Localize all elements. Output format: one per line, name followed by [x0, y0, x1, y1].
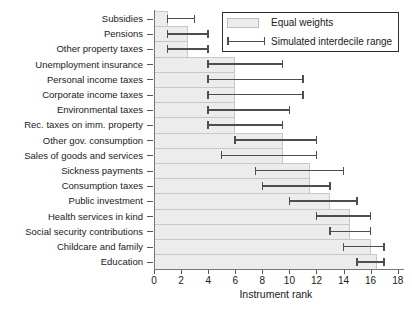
y-label-rec-taxes-on-imm-property: Rec. taxes on imm. property	[0, 117, 143, 132]
whisker-cap-lo-childcare-and-family	[343, 243, 345, 251]
x-tick-label-8: 8	[250, 275, 274, 286]
bar-social-security-contributions	[154, 224, 350, 240]
y-tick-corporate-income-taxes	[147, 95, 153, 96]
y-label-pensions: Pensions	[0, 26, 143, 41]
whisker-cap-lo-other-property-taxes	[167, 45, 169, 53]
whisker-cap-hi-sales-of-goods-and-services	[316, 151, 318, 159]
y-label-sickness-payments: Sickness payments	[0, 163, 143, 178]
legend-label-equal-weights: Equal weights	[271, 17, 333, 28]
legend-label-interdecile-range: Simulated interdecile range	[271, 36, 392, 47]
whisker-cap-hi-education	[383, 258, 385, 266]
whisker-cap-hi-social-security-contributions	[370, 227, 372, 235]
y-tick-personal-income-taxes	[147, 79, 153, 80]
bar-subsidies	[154, 11, 168, 27]
whisker-sickness-payments	[256, 170, 344, 172]
x-tick-10	[289, 270, 290, 274]
y-tick-education	[147, 262, 153, 263]
y-label-social-security-contributions: Social security contributions	[0, 224, 143, 239]
y-label-subsidies: Subsidies	[0, 11, 143, 26]
whisker-cap-hi-other-gov-consumption	[316, 136, 318, 144]
x-tick-0	[154, 270, 155, 274]
whisker-environmental-taxes	[208, 109, 289, 111]
whisker-cap-lo-personal-income-taxes	[207, 75, 209, 83]
y-label-health-services-in-kind: Health services in kind	[0, 209, 143, 224]
whisker-cap-lo-environmental-taxes	[207, 106, 209, 114]
x-tick-14	[344, 270, 345, 274]
x-tick-label-16: 16	[359, 275, 383, 286]
x-tick-12	[316, 270, 317, 274]
x-tick-4	[208, 270, 209, 274]
whisker-cap-hi-rec-taxes-on-imm-property	[282, 121, 284, 129]
y-tick-public-investment	[147, 201, 153, 202]
whisker-sales-of-goods-and-services	[222, 155, 317, 157]
whisker-cap-lo-social-security-contributions	[329, 227, 331, 235]
x-tick-2	[181, 270, 182, 274]
whisker-cap-lo-rec-taxes-on-imm-property	[207, 121, 209, 129]
bar-education	[154, 254, 377, 270]
y-label-unemployment-insurance: Unemployment insurance	[0, 57, 143, 72]
x-tick-18	[398, 270, 399, 274]
y-label-corporate-income-taxes: Corporate income taxes	[0, 87, 143, 102]
legend-item-equal-weights: Equal weights	[223, 14, 398, 32]
whisker-childcare-and-family	[344, 246, 385, 248]
whisker-cap-hi-childcare-and-family	[383, 243, 385, 251]
x-tick-16	[371, 270, 372, 274]
y-label-public-investment: Public investment	[0, 193, 143, 208]
whisker-cap-hi-health-services-in-kind	[370, 212, 372, 220]
y-tick-pensions	[147, 34, 153, 35]
y-tick-subsidies	[147, 19, 153, 20]
whisker-corporate-income-taxes	[208, 94, 303, 96]
whisker-consumption-taxes	[262, 185, 330, 187]
whisker-cap-lo-health-services-in-kind	[316, 212, 318, 220]
y-label-childcare-and-family: Childcare and family	[0, 239, 143, 254]
whisker-cap-hi-corporate-income-taxes	[302, 91, 304, 99]
bar-childcare-and-family	[154, 239, 371, 255]
y-label-other-gov-consumption: Other gov. consumption	[0, 133, 143, 148]
whisker-personal-income-taxes	[208, 79, 303, 81]
x-tick-label-12: 12	[304, 275, 328, 286]
x-tick-label-10: 10	[277, 275, 301, 286]
whisker-cap-lo-sales-of-goods-and-services	[221, 151, 223, 159]
y-tick-sales-of-goods-and-services	[147, 155, 153, 156]
y-label-sales-of-goods-and-services: Sales of goods and services	[0, 148, 143, 163]
x-tick-label-6: 6	[223, 275, 247, 286]
whisker-cap-lo-consumption-taxes	[262, 182, 264, 190]
whisker-health-services-in-kind	[316, 215, 370, 217]
whisker-cap-lo-corporate-income-taxes	[207, 91, 209, 99]
y-tick-environmental-taxes	[147, 110, 153, 111]
legend-item-interdecile-range: Simulated interdecile range	[223, 32, 398, 50]
y-tick-other-gov-consumption	[147, 140, 153, 141]
x-tick-label-18: 18	[386, 275, 410, 286]
y-label-personal-income-taxes: Personal income taxes	[0, 72, 143, 87]
whisker-cap-hi-other-property-taxes	[207, 45, 209, 53]
y-tick-consumption-taxes	[147, 186, 153, 187]
errorbar-glyph-icon	[227, 36, 265, 46]
legend: Equal weights Simulated interdecile rang…	[222, 12, 399, 52]
whisker-cap-lo-other-gov-consumption	[234, 136, 236, 144]
whisker-subsidies	[168, 18, 195, 20]
whisker-cap-hi-unemployment-insurance	[282, 60, 284, 68]
x-tick-label-0: 0	[142, 275, 166, 286]
y-tick-rec-taxes-on-imm-property	[147, 125, 153, 126]
x-tick-8	[262, 270, 263, 274]
x-tick-label-4: 4	[196, 275, 220, 286]
whisker-education	[357, 261, 384, 263]
y-label-environmental-taxes: Environmental taxes	[0, 102, 143, 117]
whisker-public-investment	[289, 200, 357, 202]
whisker-unemployment-insurance	[208, 63, 282, 65]
whisker-cap-lo-public-investment	[289, 197, 291, 205]
instrument-rank-chart: SubsidiesPensionsOther property taxesUne…	[0, 0, 412, 318]
x-tick-label-14: 14	[332, 275, 356, 286]
whisker-other-gov-consumption	[235, 139, 316, 141]
whisker-cap-hi-consumption-taxes	[329, 182, 331, 190]
y-label-consumption-taxes: Consumption taxes	[0, 178, 143, 193]
whisker-cap-hi-personal-income-taxes	[302, 75, 304, 83]
whisker-pensions	[168, 33, 209, 35]
y-axis-line	[154, 10, 155, 269]
y-tick-social-security-contributions	[147, 231, 153, 232]
whisker-cap-hi-sickness-payments	[343, 167, 345, 175]
bar-swatch-icon	[227, 18, 259, 28]
whisker-cap-hi-subsidies	[194, 15, 196, 23]
whisker-social-security-contributions	[330, 231, 371, 233]
y-tick-sickness-payments	[147, 171, 153, 172]
